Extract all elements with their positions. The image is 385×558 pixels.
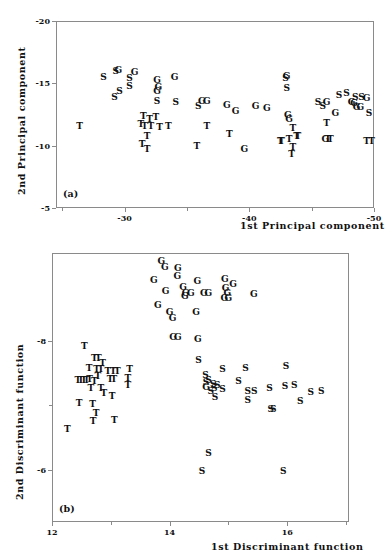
data-point-S: S: [100, 73, 107, 82]
data-point-S: S: [245, 396, 252, 405]
data-point-S: S: [242, 364, 249, 373]
y-minor-tick-mark: [49, 405, 52, 406]
data-point-T: T: [323, 119, 330, 128]
data-point-S: S: [318, 387, 325, 396]
y-tick-label: -5: [41, 204, 50, 212]
data-point-T: T: [109, 392, 116, 401]
data-point-T: T: [156, 122, 163, 131]
data-point-G: G: [205, 289, 213, 298]
data-point-G: G: [153, 86, 161, 95]
panel-label-b: (b): [59, 503, 75, 514]
x-axis-title-a: 1st Principal component: [240, 220, 385, 231]
data-point-G: G: [171, 73, 179, 82]
data-point-G: G: [154, 300, 162, 309]
data-point-S: S: [336, 90, 343, 99]
data-point-G: G: [194, 334, 202, 343]
y-tick-label: -15: [36, 79, 50, 87]
data-point-G: G: [150, 276, 158, 285]
data-point-T: T: [327, 135, 334, 144]
data-point-S: S: [282, 381, 289, 390]
data-point-T: T: [290, 124, 297, 133]
data-point-T: T: [87, 384, 94, 393]
data-point-G: G: [202, 382, 210, 391]
x-tick-mark: [249, 208, 250, 212]
y-tick-label: -8: [37, 337, 46, 345]
y-tick-label: -20: [36, 17, 50, 25]
data-point-G: G: [193, 276, 201, 285]
data-point-G: G: [356, 103, 364, 112]
data-point-T: T: [86, 363, 93, 372]
y-tick-mark: [48, 470, 52, 471]
data-point-S: S: [212, 392, 219, 401]
data-point-S: S: [219, 365, 226, 374]
data-point-T: T: [278, 136, 285, 145]
data-point-S: S: [270, 404, 277, 413]
data-point-S: S: [126, 81, 133, 90]
data-point-T: T: [125, 380, 132, 389]
y-tick-mark: [48, 341, 52, 342]
x-minor-tick-mark: [111, 522, 112, 525]
data-point-G: G: [161, 263, 169, 272]
data-point-S: S: [283, 84, 290, 93]
x-tick-label: -30: [117, 214, 131, 222]
data-point-S: S: [195, 355, 202, 364]
data-point-S: S: [266, 383, 273, 392]
data-point-T: T: [144, 145, 151, 154]
y-tick-mark: [52, 83, 56, 84]
x-tick-label: -50: [367, 214, 381, 222]
data-point-T: T: [165, 121, 172, 130]
data-point-G: G: [232, 106, 240, 115]
data-point-G: G: [162, 286, 170, 295]
data-point-G: G: [363, 94, 371, 103]
x-tick-label: 12: [46, 528, 57, 536]
x-tick-mark: [374, 208, 375, 212]
data-point-G: G: [223, 100, 231, 109]
data-point-G: G: [203, 96, 211, 105]
data-point-G: G: [192, 307, 200, 316]
x-minor-tick-mark: [346, 522, 347, 525]
data-point-G: G: [331, 109, 339, 118]
data-point-T: T: [152, 112, 159, 121]
data-point-S: S: [297, 396, 304, 405]
y-axis-title-b: 2nd Discriminant function: [14, 344, 25, 500]
data-point-T: T: [76, 399, 83, 408]
data-point-T: T: [204, 121, 211, 130]
data-point-T: T: [81, 342, 88, 351]
x-tick-label: -40: [242, 214, 256, 222]
data-point-S: S: [111, 93, 118, 102]
data-point-G: G: [240, 145, 248, 154]
data-point-T: T: [76, 121, 83, 130]
data-point-T: T: [110, 375, 117, 384]
x-tick-mark: [125, 208, 126, 212]
data-point-S: S: [283, 362, 290, 371]
data-point-S: S: [205, 448, 212, 457]
y-tick-mark: [52, 21, 56, 22]
y-tick-mark: [52, 146, 56, 147]
data-point-T: T: [194, 141, 201, 150]
data-point-S: S: [366, 109, 373, 118]
data-point-G: G: [283, 71, 291, 80]
x-tick-mark: [287, 522, 288, 526]
y-tick-label: -6: [37, 466, 46, 474]
data-point-G: G: [225, 294, 233, 303]
y-tick-label: -10: [36, 142, 50, 150]
data-point-T: T: [90, 416, 97, 425]
data-point-G: G: [174, 333, 182, 342]
data-point-G: G: [181, 292, 189, 301]
data-point-S: S: [172, 98, 179, 107]
data-point-G: G: [263, 104, 271, 113]
data-point-S: S: [235, 376, 242, 385]
data-point-G: G: [323, 98, 331, 107]
data-point-T: T: [226, 130, 233, 139]
panel-label-a: (a): [63, 188, 78, 199]
data-point-G: G: [252, 101, 260, 110]
data-point-T: T: [100, 389, 107, 398]
data-point-S: S: [251, 387, 258, 396]
x-minor-tick-mark: [228, 522, 229, 525]
y-tick-mark: [52, 208, 56, 209]
data-point-G: G: [169, 314, 177, 323]
data-point-S: S: [308, 387, 315, 396]
plot-frame-a: [56, 21, 374, 208]
data-point-G: G: [250, 289, 258, 298]
y-axis-title-a: 2nd Principal component: [16, 47, 27, 195]
